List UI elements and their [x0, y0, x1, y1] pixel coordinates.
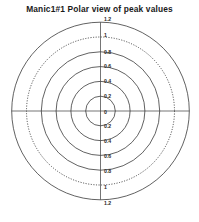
- tick-label-bottom-0-4: 0.4: [104, 138, 111, 144]
- tick-label-bottom-1: 1: [104, 184, 107, 190]
- tick-label-top-0-8: 0.8: [104, 49, 111, 55]
- polar-plot-canvas: 1.2 1 0.8 0.6 0.4 0.2 0 0.2 0.4 0.6 0.8 …: [0, 0, 199, 222]
- polar-chart: Manic1#1 Polar view of peak values 1.2 1…: [0, 0, 199, 222]
- tick-label-center-0: 0: [104, 109, 107, 115]
- tick-label-top-1-2: 1.2: [104, 16, 111, 22]
- tick-label-bottom-0-8: 0.8: [104, 168, 111, 174]
- tick-label-bottom-1-2: 1.2: [104, 200, 111, 206]
- tick-label-top-0-2: 0.2: [104, 93, 111, 99]
- tick-label-top-1: 1: [104, 32, 107, 38]
- tick-label-bottom-0-2: 0.2: [104, 123, 111, 129]
- tick-label-top-0-4: 0.4: [104, 78, 111, 84]
- tick-label-top-0-6: 0.6: [104, 63, 111, 69]
- tick-label-bottom-0-6: 0.6: [104, 153, 111, 159]
